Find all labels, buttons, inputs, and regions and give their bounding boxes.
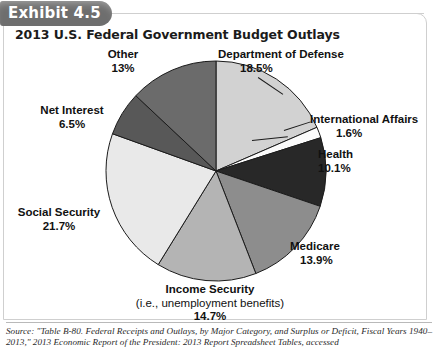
slice-label-income-security: Income Security (i.e., unemployment bene… <box>110 283 310 324</box>
slice-label-income-security-sub: (i.e., unemployment benefits) <box>110 297 310 311</box>
source-note: Source: "Table B-80. Federal Receipts an… <box>6 326 432 349</box>
slice-label-other-name: Other <box>84 48 162 62</box>
slice-label-social-security: Social Security 21.7% <box>6 206 112 233</box>
slice-label-medicare-value: 13.9% <box>300 254 400 268</box>
slice-label-net-interest-name: Net Interest <box>24 104 120 118</box>
slice-label-medicare: Medicare 13.9% <box>290 240 400 267</box>
exhibit-tab: Exhibit 4.5 <box>0 1 112 26</box>
slice-label-other: Other 13% <box>84 48 162 75</box>
exhibit-top-rule <box>118 13 424 14</box>
slice-label-health: Health 10.1% <box>318 148 428 175</box>
slice-label-department-of-defense-value: 18.5% <box>240 62 418 76</box>
slice-label-income-security-name: Income Security <box>110 283 310 297</box>
slice-label-international-affairs: International Affairs 1.6% <box>310 113 436 140</box>
slice-label-health-value: 10.1% <box>318 162 428 176</box>
slice-label-international-affairs-value: 1.6% <box>336 127 436 141</box>
chart-title: 2013 U.S. Federal Government Budget Outl… <box>15 27 340 42</box>
slice-label-international-affairs-name: International Affairs <box>310 113 436 127</box>
slice-label-net-interest-value: 6.5% <box>24 118 120 132</box>
slice-label-department-of-defense: Department of Defense 18.5% <box>218 48 418 75</box>
slice-label-social-security-value: 21.7% <box>6 220 112 234</box>
slice-label-social-security-name: Social Security <box>6 206 112 220</box>
exhibit-figure: Exhibit 4.5 2013 U.S. Federal Government… <box>0 0 438 352</box>
slice-label-medicare-name: Medicare <box>290 240 400 254</box>
slice-label-health-name: Health <box>318 148 428 162</box>
slice-label-other-value: 13% <box>84 62 162 76</box>
slice-label-net-interest: Net Interest 6.5% <box>24 104 120 131</box>
slice-label-department-of-defense-name: Department of Defense <box>218 48 418 62</box>
source-divider <box>6 322 432 323</box>
exhibit-tab-label: Exhibit 4.5 <box>8 4 108 22</box>
